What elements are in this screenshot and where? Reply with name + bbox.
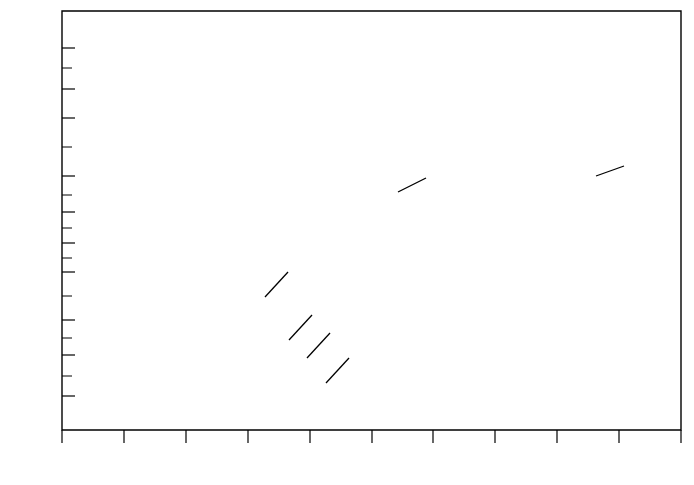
label-leader-lines xyxy=(265,166,624,383)
leader-sanborn-2 xyxy=(326,358,349,383)
leader-arrow-right-lower xyxy=(596,166,624,176)
leader-dust-kansas xyxy=(289,315,312,340)
chart-canvas xyxy=(0,0,694,485)
plot-frame xyxy=(62,11,681,430)
leader-loess-argentina xyxy=(265,272,288,297)
probability-plot-figure xyxy=(0,0,694,485)
leader-sanborn-1 xyxy=(307,333,330,358)
leader-arrow-right-upper xyxy=(398,178,426,192)
plot-box-border xyxy=(62,11,681,430)
y-axis-minor-ticks xyxy=(62,68,72,376)
x-axis-ticks xyxy=(62,430,681,443)
y-axis-major-ticks xyxy=(62,48,75,396)
